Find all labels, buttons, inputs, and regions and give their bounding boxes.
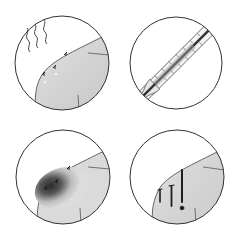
symptom-illustration: Skin with heat waves and bite marks (0, 0, 246, 240)
panel-bleeding: Skin with bleeding drips (123, 120, 246, 240)
panel-heat-skin: Skin with heat waves and bite marks (0, 0, 123, 120)
heat-skin-icon (0, 0, 123, 120)
thermometer-icon (123, 0, 246, 120)
bruise-icon (0, 120, 123, 240)
panel-bruise: Skin with dark bruise and bite marks (0, 120, 123, 240)
panel-thermometer: Thermometer (123, 0, 246, 120)
bleeding-icon (123, 120, 246, 240)
